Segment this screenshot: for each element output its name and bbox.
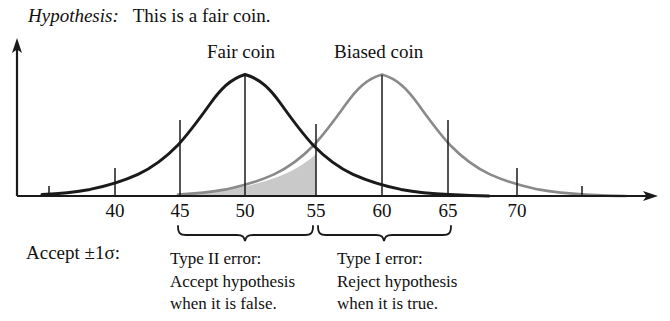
type-1-error-line-2: Reject hypothesis (337, 271, 457, 294)
tick-label-60: 60 (362, 200, 402, 222)
distribution-plot (0, 0, 670, 321)
type-2-error-line-2: Accept hypothesis (170, 271, 295, 294)
type-2-error-line-3: when it is false. (170, 293, 295, 316)
type-2-error-annotation: Type II error: Accept hypothesis when it… (170, 248, 295, 316)
type-2-error-title: Type II error: (170, 248, 295, 271)
tick-label-70: 70 (497, 200, 537, 222)
tick-label-45: 45 (160, 200, 200, 222)
tick-label-55: 55 (296, 200, 336, 222)
accept-sigma-label: Accept ±1σ: (26, 243, 120, 262)
tick-label-50: 50 (225, 200, 265, 222)
tick-label-40: 40 (95, 200, 135, 222)
brace-type-1 (318, 226, 451, 241)
type-1-error-line-3: when it is true. (337, 293, 457, 316)
region-braces (178, 226, 451, 241)
figure-canvas: Hypothesis:This is a fair coin. Fair coi… (0, 0, 670, 321)
type-1-error-title: Type I error: (337, 248, 457, 271)
brace-type-2 (178, 226, 313, 241)
type-1-error-annotation: Type I error: Reject hypothesis when it … (337, 248, 457, 316)
tick-label-65: 65 (428, 200, 468, 222)
